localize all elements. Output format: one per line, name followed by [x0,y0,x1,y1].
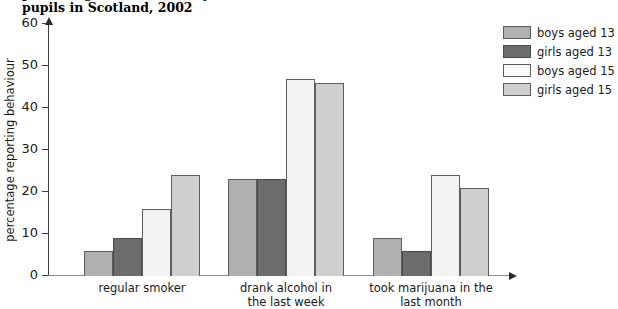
x-axis-category-label: regular smoker [62,282,222,296]
page-title: percentage of 13- and 15-year-old pupils… [22,0,442,15]
legend-label: girls aged 13 [537,45,612,59]
bar-group [373,24,489,276]
y-axis-tick-label: 10 [21,225,38,240]
legend-item[interactable]: girls aged 13 [503,45,615,58]
y-axis-tick-label: 20 [21,183,38,198]
legend: boys aged 13girls aged 13boys aged 15gir… [503,26,615,96]
bar[interactable] [142,209,171,276]
bar[interactable] [171,175,200,276]
y-axis-tick-label: 40 [21,99,38,114]
bar[interactable] [84,251,113,276]
y-axis-line [48,24,49,276]
y-axis-tick-label: 30 [21,141,38,156]
y-axis-tick: 60 [42,23,48,24]
legend-item[interactable]: girls aged 15 [503,83,615,96]
legend-label: boys aged 15 [537,64,615,78]
legend-swatch [503,64,531,77]
chart-plot-area: 0102030405060 [48,24,510,276]
legend-swatch [503,45,531,58]
y-axis-tick: 0 [42,275,48,276]
legend-swatch [503,83,531,96]
y-axis-tick: 40 [42,107,48,108]
bar[interactable] [228,179,257,276]
y-axis-tick-label: 60 [21,15,38,30]
legend-item[interactable]: boys aged 13 [503,26,615,39]
bar-group [84,24,200,276]
bar[interactable] [113,238,142,276]
legend-label: boys aged 13 [537,26,615,40]
bar[interactable] [402,251,431,276]
bar[interactable] [315,83,344,276]
legend-swatch [503,26,531,39]
y-axis-tick-label: 0 [30,267,38,282]
y-axis-tick: 10 [42,233,48,234]
bar[interactable] [460,188,489,276]
y-axis-title-label: percentage reporting behaviour [3,58,17,241]
y-axis-tick: 20 [42,191,48,192]
x-axis-category-label: took marijuana in the last month [351,282,511,309]
x-axis-category-label: drank alcohol in the last week [206,282,366,309]
bar[interactable] [431,175,460,276]
legend-item[interactable]: boys aged 15 [503,64,615,77]
y-axis-title: percentage reporting behaviour [2,24,18,276]
y-axis-tick: 30 [42,149,48,150]
bar[interactable] [373,238,402,276]
bar-group [228,24,344,276]
y-axis-tick-label: 50 [21,57,38,72]
arrow-right-icon [509,272,517,280]
bar[interactable] [257,179,286,276]
legend-label: girls aged 15 [537,83,612,97]
y-axis-tick: 50 [42,65,48,66]
bar[interactable] [286,79,315,276]
